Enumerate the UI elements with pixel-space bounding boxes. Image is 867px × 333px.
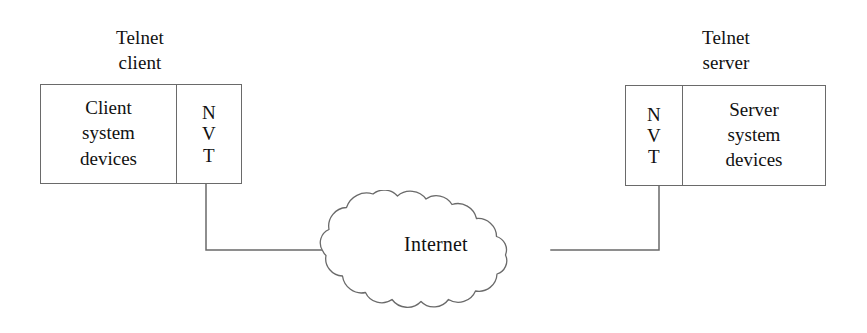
server-system-devices-cell: Server system devices xyxy=(683,86,825,185)
telnet-server-box: N V T Server system devices xyxy=(625,85,826,186)
server-nvt-cell: N V T xyxy=(626,86,683,185)
telnet-client-box: Client system devices N V T xyxy=(40,84,242,184)
client-nvt-label: N V T xyxy=(202,102,216,166)
client-system-devices-cell: Client system devices xyxy=(41,85,176,183)
client-nvt-cell: N V T xyxy=(176,85,241,183)
server-node-caption: Telnet server xyxy=(646,26,806,75)
server-nvt-label: N V T xyxy=(647,104,661,168)
connector-server-to-internet xyxy=(551,186,659,250)
internet-cloud-label: Internet xyxy=(316,233,556,256)
connector-client-to-internet xyxy=(206,184,322,250)
client-node-caption: Telnet client xyxy=(60,26,220,75)
telnet-architecture-diagram: Telnet client Client system devices N V … xyxy=(0,0,867,333)
